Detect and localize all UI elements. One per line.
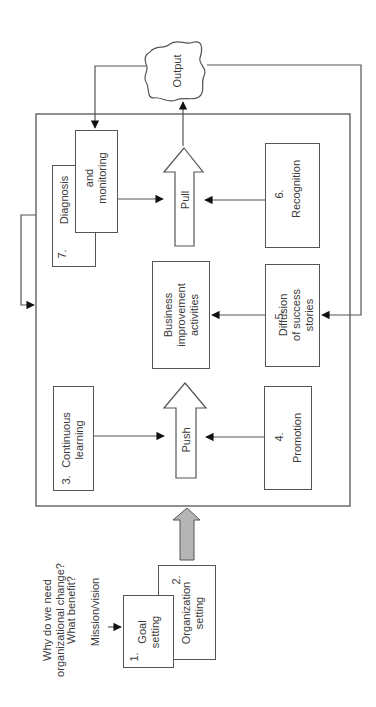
input-arrow xyxy=(173,508,200,560)
diagnosis-number: 7. xyxy=(56,249,68,258)
business-label: Business improvement activities xyxy=(162,283,201,347)
organization-label: Organization setting xyxy=(180,582,206,644)
goal-label: Goal setting xyxy=(136,616,162,648)
promotion-label: Promotion xyxy=(291,413,304,463)
diagnosis-label: Diagnosis xyxy=(58,176,71,224)
push-label: Push xyxy=(180,427,193,452)
feedback-line-left xyxy=(21,215,36,305)
monitoring-label: and monitoring xyxy=(83,152,109,203)
diffusion-label: Diffusion of success stories xyxy=(277,289,316,341)
goal-number: 1. xyxy=(128,652,140,661)
box-promotion xyxy=(264,386,312,490)
intro-mission: Mission/vision xyxy=(89,578,102,646)
promotion-number: 4. xyxy=(273,432,285,441)
intro-benefit: What benefit? xyxy=(65,576,78,644)
learning-label: Continuous learning xyxy=(60,412,86,468)
feedback-line-monitoring xyxy=(95,66,146,128)
recognition-label: Recognition xyxy=(290,160,303,218)
pull-label: Pull xyxy=(179,191,192,209)
recognition-number: 6. xyxy=(273,189,285,198)
learning-number: 3. xyxy=(60,475,72,484)
output-label: Output xyxy=(171,54,184,87)
